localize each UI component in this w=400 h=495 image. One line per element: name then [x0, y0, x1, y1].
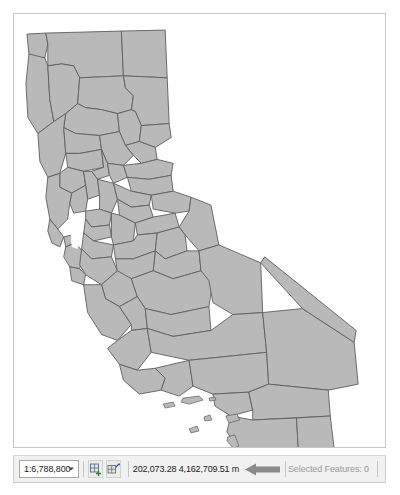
map-frame[interactable] — [13, 13, 386, 448]
map-application-window: 1:6,788,800 202,073.28 4 — [0, 0, 400, 495]
map-coordinates-text: 202,073.28 4,162,709.51 m — [133, 464, 239, 474]
map-scale-value: 1:6,788,800 — [20, 465, 70, 474]
add-grid-glyph — [89, 463, 102, 476]
california-counties-map[interactable] — [14, 14, 385, 447]
map-scale-combobox[interactable]: 1:6,788,800 — [19, 460, 79, 478]
chevron-down-icon[interactable] — [68, 468, 74, 471]
toolbar-divider-4 — [377, 461, 378, 477]
toolbar-divider-2 — [128, 461, 129, 477]
left-arrow-icon — [245, 463, 281, 476]
measure-grid-icon[interactable] — [106, 460, 121, 478]
selected-features-status: Selected Features: 0 — [288, 464, 373, 474]
measure-grid-glyph — [107, 463, 120, 476]
add-grid-icon[interactable] — [88, 460, 103, 478]
toolbar-divider-3 — [285, 461, 286, 477]
toolbar-divider-1 — [83, 461, 84, 477]
map-coordinates: 202,073.28 4,162,709.51 m — [133, 456, 281, 482]
status-bar: 1:6,788,800 202,073.28 4 — [13, 455, 386, 483]
